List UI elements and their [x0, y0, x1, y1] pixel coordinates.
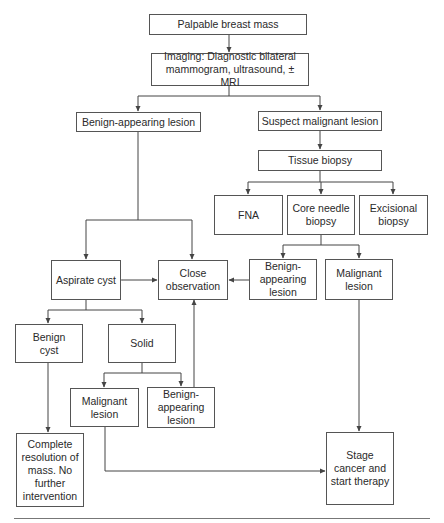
- node-solid-benign-appearing-lesion: Benign-appearing lesion: [147, 387, 215, 428]
- node-label: Benign-appearing lesion: [258, 260, 308, 299]
- node-biopsy-benign-appearing-lesion: Benign-appearing lesion: [249, 259, 317, 300]
- node-solid-malignant-lesion: Malignant lesion: [70, 388, 139, 427]
- node-imaging: Imaging: Diagnostic bilateral mammogram,…: [151, 53, 309, 86]
- node-label: Malignant lesion: [81, 395, 128, 421]
- node-palpable-breast-mass: Palpable breast mass: [149, 14, 307, 35]
- node-fna: FNA: [214, 195, 283, 235]
- node-aspirate-cyst: Aspirate cyst: [51, 260, 121, 300]
- node-label: Stage cancer and start therapy: [330, 449, 390, 488]
- node-close-observation: Close observation: [158, 260, 228, 300]
- node-label: Complete resolution of mass. No further …: [20, 438, 80, 503]
- node-label: Suspect malignant lesion: [262, 115, 379, 128]
- node-complete-resolution: Complete resolution of mass. No further …: [16, 433, 84, 507]
- node-label: Core needle biopsy: [290, 202, 352, 228]
- node-solid: Solid: [108, 324, 176, 363]
- node-label: Benign-appearing lesion: [156, 388, 206, 427]
- node-stage-cancer: Stage cancer and start therapy: [326, 432, 394, 505]
- node-label: Imaging: Diagnostic bilateral mammogram,…: [160, 50, 300, 89]
- node-benign-appearing-lesion: Benign-appearing lesion: [76, 112, 201, 132]
- node-label: Malignant lesion: [336, 267, 382, 293]
- node-label: Solid: [130, 337, 153, 350]
- node-label: Aspirate cyst: [56, 274, 116, 287]
- node-label: Benign-appearing lesion: [82, 116, 195, 129]
- node-excisional-biopsy: Excisional biopsy: [359, 195, 428, 235]
- node-label: Close observation: [161, 267, 225, 293]
- node-label: Excisional biopsy: [370, 202, 417, 228]
- node-tissue-biopsy: Tissue biopsy: [258, 150, 382, 171]
- flowchart: Palpable breast mass Imaging: Diagnostic…: [0, 0, 444, 523]
- node-biopsy-malignant-lesion: Malignant lesion: [325, 259, 393, 300]
- node-label: Tissue biopsy: [288, 154, 352, 167]
- node-label: Benign cyst: [30, 331, 68, 357]
- node-core-needle-biopsy: Core needle biopsy: [287, 195, 355, 235]
- bottom-divider: [14, 518, 430, 519]
- node-suspect-malignant-lesion: Suspect malignant lesion: [258, 111, 382, 131]
- node-label: Palpable breast mass: [178, 18, 279, 31]
- node-benign-cyst: Benign cyst: [15, 324, 83, 363]
- node-label: FNA: [238, 209, 259, 222]
